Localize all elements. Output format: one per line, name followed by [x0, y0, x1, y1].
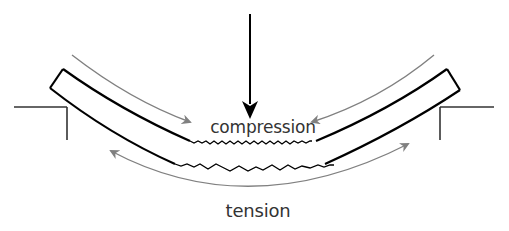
tension-label: tension	[226, 200, 291, 221]
compression-label: compression	[210, 117, 316, 137]
compression-wavy-line	[190, 141, 312, 144]
beam-top-edge-left	[63, 69, 190, 141]
beam-right-end	[447, 69, 460, 90]
beam-top-edge-right	[316, 69, 447, 141]
left-support	[14, 107, 67, 140]
tension-wavy-line	[175, 164, 334, 171]
load-arrow	[242, 14, 258, 119]
tension-arrow	[111, 144, 408, 186]
compression-arrow-right	[312, 55, 434, 122]
beam-bending-diagram	[0, 0, 509, 231]
beam-left-end	[50, 69, 63, 88]
right-support	[440, 107, 494, 140]
